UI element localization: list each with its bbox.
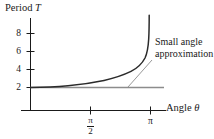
x-axis-title-prefix: Angle: [166, 102, 194, 113]
exact-period-curve: [31, 15, 150, 87]
y-tick-label-4: 4: [7, 65, 21, 75]
small-angle-approximation-annotation: Small angle approximation: [155, 36, 214, 60]
y-tick-label-2: 2: [7, 83, 21, 93]
y-tick-label-8: 8: [7, 29, 21, 39]
y-axis-title: Period T: [5, 3, 41, 14]
fraction-numerator: π: [87, 116, 94, 125]
fraction-denominator: 2: [87, 127, 94, 136]
x-axis-title: Angle θ: [166, 103, 199, 114]
annotation-line-1: Small angle: [155, 36, 203, 47]
pendulum-period-chart: Period T Angle θ 8 6 4 2 π 2 π Small ang…: [0, 0, 214, 139]
y-axis-title-symbol: T: [35, 2, 41, 13]
x-tick-label-pi-over-2: π 2: [83, 117, 98, 138]
annotation-line-2: approximation: [155, 48, 213, 59]
chart-plot-area: [0, 0, 214, 139]
x-axis-title-symbol: θ: [194, 102, 199, 113]
x-tick-label-pi: π: [144, 117, 157, 127]
y-axis-title-prefix: Period: [5, 2, 35, 13]
fraction-pi-over-2: π 2: [87, 116, 94, 136]
y-tick-label-6: 6: [7, 47, 21, 57]
